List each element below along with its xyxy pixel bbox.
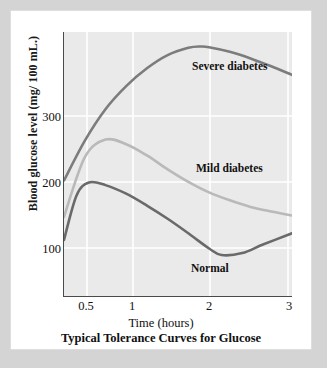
x-tick-label-3: 3	[286, 299, 292, 314]
series-line-normal	[64, 182, 292, 255]
plot-area: Severe diabetes Mild diabetes Normal	[63, 32, 292, 297]
y-tick-label-300: 300	[29, 110, 61, 125]
x-tick-label-2: 2	[206, 299, 212, 314]
curve-label-normal: Normal	[191, 262, 229, 274]
data-series-layer	[64, 46, 292, 255]
figure-caption: Typical Tolerance Curves for Glucose	[11, 331, 311, 346]
curve-label-severe-diabetes: Severe diabetes	[192, 60, 267, 72]
y-tick-label-200: 200	[29, 176, 61, 191]
figure-card: Blood glucose level (mg/ 100 mL.) 300 20…	[11, 11, 311, 349]
x-tick-label-0-5: 0.5	[78, 299, 94, 314]
x-tick-label-1: 1	[129, 299, 135, 314]
y-axis-tick-group: 300 200 100	[25, 11, 61, 349]
x-axis-title: Time (hours)	[11, 316, 311, 331]
y-tick-label-100: 100	[29, 242, 61, 257]
x-axis-tick-group: 0.5 1 2 3	[63, 299, 303, 317]
curve-label-mild-diabetes: Mild diabetes	[196, 162, 263, 174]
series-line-mild-diabetes	[64, 139, 292, 217]
